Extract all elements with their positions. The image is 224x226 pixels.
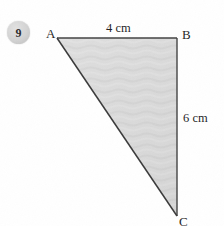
- vertex-label-b: B: [182, 28, 191, 41]
- vertex-label-a: A: [46, 27, 55, 40]
- dimension-label-right: 6 cm: [183, 112, 208, 125]
- dimension-label-top: 4 cm: [106, 22, 131, 35]
- vertex-label-c: C: [179, 215, 188, 226]
- figure-page: 9 A B C 4 cm 6 cm: [0, 0, 224, 226]
